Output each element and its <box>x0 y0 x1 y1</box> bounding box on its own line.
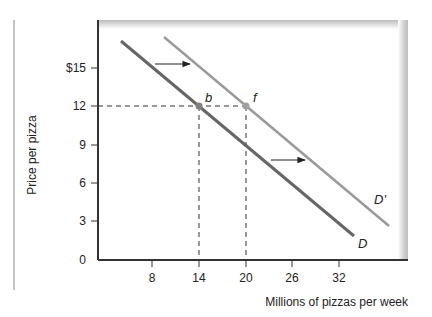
y-tick-12: 12 <box>73 99 87 113</box>
x-tick-32: 32 <box>332 271 346 285</box>
frame-top-shade <box>98 20 408 29</box>
point-f-label: f <box>253 90 258 105</box>
demand-shift-chart: Price per pizza b f D D' $15 12 9 6 3 0 <box>0 0 432 317</box>
guide-lines <box>98 106 246 260</box>
x-tick-20: 20 <box>239 271 253 285</box>
point-b-marker <box>196 103 203 110</box>
x-axis-title: Millions of pizzas per week <box>265 295 409 309</box>
x-tick-8: 8 <box>149 271 156 285</box>
demand-curve-d <box>121 41 354 236</box>
frame-right-shade <box>398 20 408 260</box>
y-tick-0: 0 <box>79 253 86 267</box>
curve-d-label: D <box>358 236 367 251</box>
y-tick-labels: $15 12 9 6 3 0 <box>66 61 86 267</box>
x-tick-labels: 8 14 20 26 32 <box>149 271 346 285</box>
demand-curve-d-prime <box>164 37 389 226</box>
curve-d-prime-label: D' <box>374 192 386 207</box>
y-tick-9: 9 <box>79 138 86 152</box>
y-ticks <box>91 68 98 221</box>
point-f-marker <box>243 103 250 110</box>
y-tick-3: 3 <box>79 214 86 228</box>
x-tick-14: 14 <box>192 271 206 285</box>
point-b-label: b <box>205 90 212 105</box>
y-tick-15: $15 <box>66 61 86 75</box>
x-ticks <box>152 260 339 267</box>
y-axis-title: Price per pizza <box>25 115 39 195</box>
y-tick-6: 6 <box>79 176 86 190</box>
x-tick-26: 26 <box>285 271 299 285</box>
